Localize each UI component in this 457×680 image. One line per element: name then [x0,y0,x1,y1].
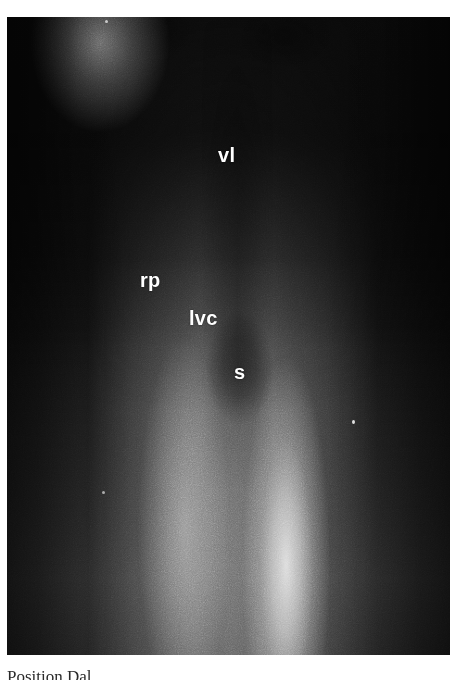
left-bright-stripe-layer [7,17,450,655]
film-speck-artifact [352,420,355,424]
annotation-label-lvc: lvc [189,308,218,328]
dark-upper-field-layer [7,17,450,655]
edge-vignette-layer [7,17,450,655]
film-speck-artifact [102,491,105,494]
right-bright-stripe-layer [7,17,450,655]
gas-bubble-shadow-layer [7,17,450,655]
radiograph-image: vl rp lvc s [7,17,450,655]
figure-page: vl rp lvc s Position Dal [0,0,457,680]
lower-brightness-layer [7,17,450,655]
annotation-label-vl: vl [218,145,235,165]
film-speck-artifact [105,20,108,23]
upper-shadow-blobs-layer [7,17,450,655]
annotation-label-rp: rp [140,270,161,290]
soft-tissue-column-layer [7,17,450,655]
film-grain-layer [7,17,450,655]
midline-spine-shadow-layer [7,17,450,655]
annotation-label-s: s [234,362,245,382]
upper-left-bright-layer [7,17,450,655]
figure-caption: Position Dal [7,667,450,680]
